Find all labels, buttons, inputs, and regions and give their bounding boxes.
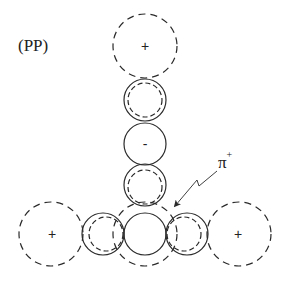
upper-small-inner-dashed — [128, 83, 162, 117]
top-plus-sign: + — [141, 38, 149, 54]
middle-minus-sign: - — [143, 136, 148, 152]
right-small-circle — [166, 213, 208, 255]
right-small-inner-dashed — [167, 217, 201, 251]
left-small-circle — [82, 213, 124, 255]
molecular-diagram: + - + + — [0, 0, 285, 282]
lower-small-inner-dashed — [128, 170, 162, 204]
pion-zigzag-arrow — [175, 171, 217, 206]
left-plus-sign: + — [48, 226, 56, 242]
lower-small-circle — [124, 164, 166, 206]
right-plus-sign: + — [234, 226, 242, 242]
upper-small-circle — [124, 79, 166, 121]
center-circle — [124, 213, 166, 255]
left-small-inner-dashed — [89, 217, 123, 251]
